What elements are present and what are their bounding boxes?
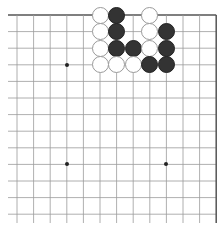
white-stone [141, 7, 158, 24]
white-stone [92, 56, 109, 73]
black-stone [125, 40, 142, 57]
white-stone [92, 23, 109, 40]
go-board[interactable] [0, 0, 222, 228]
black-stone [158, 23, 175, 40]
white-stone [125, 56, 142, 73]
black-stone [108, 7, 125, 24]
white-stone [92, 7, 109, 24]
black-stone [108, 40, 125, 57]
star-point [65, 63, 69, 67]
white-stone [92, 40, 109, 57]
black-stone [158, 40, 175, 57]
white-stone [141, 40, 158, 57]
